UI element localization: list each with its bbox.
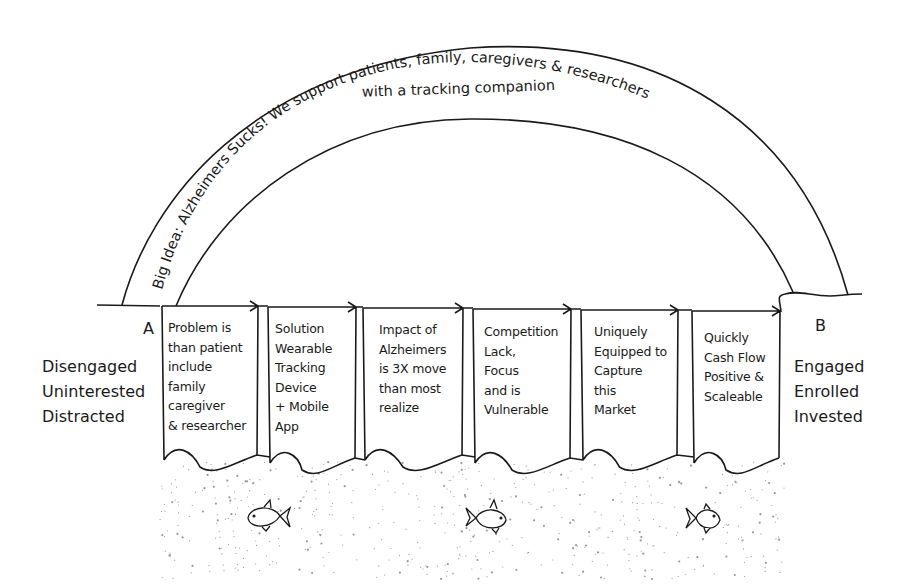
start-state: Disengaged <box>42 354 145 379</box>
arc-text-line2: with a tracking companion <box>362 77 556 100</box>
step-problem: Problem is than patient include family c… <box>168 318 246 435</box>
step-impact: Impact of Alzheimers is 3X move than mos… <box>379 320 446 418</box>
end-state: Enrolled <box>794 379 864 404</box>
ground-right <box>779 293 862 312</box>
end-state: Engaged <box>794 354 864 379</box>
fish-icon <box>686 504 720 533</box>
diagram-canvas: Big Idea: Alzheimers Sucks! We support p… <box>0 0 912 586</box>
step-solution: Solution Wearable Tracking Device + Mobi… <box>275 319 332 436</box>
step-competition: Competition Lack, Focus and is Vulnerabl… <box>484 322 558 420</box>
baseline <box>97 305 160 306</box>
arc-inner <box>176 119 793 306</box>
fish-icon <box>248 500 290 531</box>
step-cash-flow: Quickly Cash Flow Positive & Scaleable <box>704 328 766 406</box>
start-state: Distracted <box>42 404 145 429</box>
end-states: Engaged Enrolled Invested <box>794 354 864 429</box>
start-state: Uninterested <box>42 379 145 404</box>
start-states: Disengaged Uninterested Distracted <box>42 354 145 429</box>
start-label: A <box>143 319 154 338</box>
step-uniquely-equipped: Uniquely Equipped to Capture this Market <box>594 322 667 420</box>
fish-icon <box>466 500 506 533</box>
end-label: B <box>815 316 826 335</box>
step-columns <box>162 301 780 473</box>
end-state: Invested <box>794 404 864 429</box>
